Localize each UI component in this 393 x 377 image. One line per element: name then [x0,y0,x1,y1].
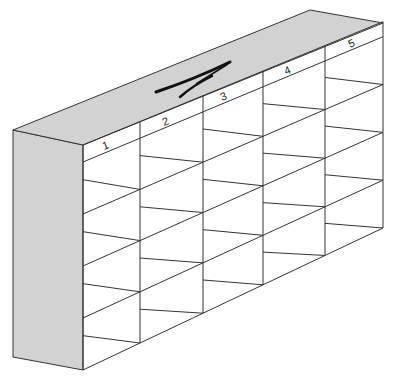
shelf-back-edge [140,156,203,163]
shelf-back-edge [325,77,383,84]
column-label-1: 1 [100,138,110,151]
shelf-back-edge [83,284,140,292]
column-label-4: 4 [282,63,292,76]
column-label-2: 2 [160,114,170,127]
shelf-back-edge [263,153,325,158]
shelf-back-edge [83,180,140,190]
left-side-panel [13,130,83,370]
shelf-back-edge [263,203,325,207]
shelf-back-edge [203,280,263,285]
shelf-back-edge [83,336,140,343]
shelf-back-edge [140,309,203,313]
shelf-back-edge [203,179,263,185]
column-label-5: 5 [346,36,356,49]
shelf-front-edge-2 [83,132,383,266]
shelf-back-edge [263,252,325,255]
shelf-back-edge [140,207,203,213]
column-label-3: 3 [218,89,228,102]
shelf-back-edge [325,175,383,180]
shelf-back-edge [263,104,325,110]
shelf-back-edge [83,232,140,241]
shelf-back-edge [203,230,263,236]
shelf-back-edge [140,258,203,263]
shelf-back-edge [325,126,383,132]
shelf-back-edge [325,223,383,228]
shelf-back-edge [203,129,263,136]
shelving-diagram: 12345 [0,0,393,377]
